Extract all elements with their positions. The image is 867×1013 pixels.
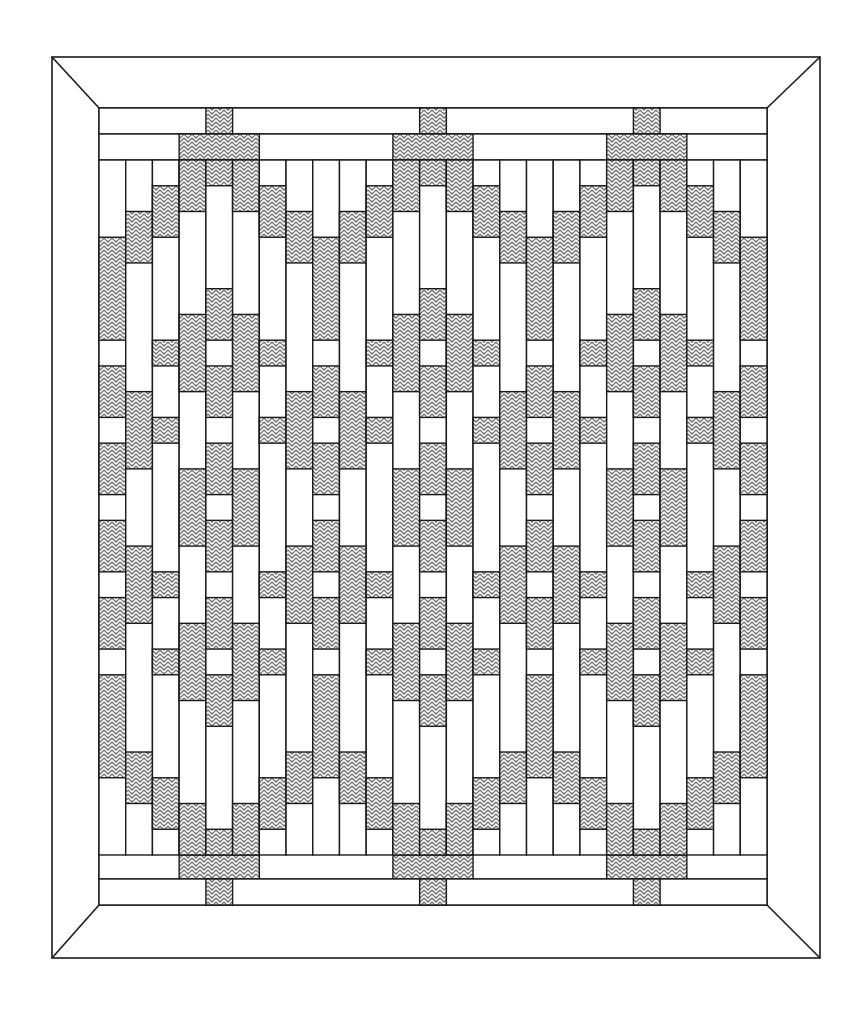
- vertical-strip: [500, 160, 527, 855]
- hatched-block: [393, 469, 420, 546]
- hatched-block: [446, 804, 473, 855]
- hatched-block: [366, 572, 393, 598]
- hatched-block: [473, 778, 500, 829]
- hatched-block: [580, 417, 607, 443]
- hatched-block: [179, 314, 206, 391]
- hatched-block: [633, 829, 660, 855]
- hatched-block: [152, 778, 179, 829]
- hatched-block: [206, 366, 233, 417]
- hatched-block: [580, 649, 607, 675]
- hatched-block: [339, 211, 366, 262]
- hatched-block: [206, 108, 233, 134]
- hatched-block: [366, 649, 393, 675]
- hatched-block: [740, 675, 767, 778]
- hatched-block: [740, 598, 767, 649]
- hatched-block: [420, 675, 447, 726]
- hatched-block: [633, 160, 660, 186]
- hatched-block: [446, 623, 473, 700]
- hatched-block: [687, 572, 714, 598]
- hatched-block: [366, 417, 393, 443]
- hatched-block: [152, 417, 179, 443]
- quilt-diagram: [0, 0, 867, 1013]
- hatched-block: [126, 546, 153, 623]
- hatched-block: [233, 160, 260, 211]
- hatched-block: [420, 879, 447, 905]
- hatched-block: [286, 752, 313, 803]
- hatched-block: [313, 675, 340, 778]
- hatched-block: [660, 314, 687, 391]
- hatched-block: [580, 778, 607, 829]
- hatched-block: [99, 443, 126, 494]
- hatched-block: [206, 520, 233, 571]
- hatched-block: [473, 340, 500, 366]
- hatched-block: [393, 134, 473, 160]
- hatched-block: [500, 211, 527, 262]
- hatched-block: [687, 778, 714, 829]
- hatched-block: [259, 649, 286, 675]
- hatched-block: [687, 649, 714, 675]
- hatched-block: [233, 469, 260, 546]
- hatched-block: [366, 340, 393, 366]
- hatched-block: [313, 237, 340, 340]
- hatched-block: [660, 469, 687, 546]
- hatched-block: [660, 623, 687, 700]
- hatched-block: [580, 340, 607, 366]
- hatched-block: [580, 186, 607, 237]
- hatched-block: [420, 289, 447, 340]
- vertical-strip: [553, 160, 580, 855]
- hatched-block: [420, 443, 447, 494]
- hatched-block: [339, 392, 366, 469]
- hatched-block: [259, 417, 286, 443]
- hatched-block: [714, 752, 741, 803]
- hatched-block: [740, 520, 767, 571]
- hatched-block: [527, 598, 554, 649]
- hatched-block: [553, 211, 580, 262]
- hatched-block: [714, 546, 741, 623]
- hatched-block: [420, 829, 447, 855]
- hatched-block: [687, 340, 714, 366]
- hatched-block: [580, 572, 607, 598]
- hatched-block: [633, 675, 660, 726]
- hatched-block: [206, 160, 233, 186]
- hatched-block: [152, 649, 179, 675]
- vertical-strip: [339, 160, 366, 855]
- hatched-block: [179, 853, 259, 879]
- hatched-block: [420, 598, 447, 649]
- hatched-block: [633, 108, 660, 134]
- hatched-block: [339, 546, 366, 623]
- hatched-block: [527, 520, 554, 571]
- hatched-block: [393, 804, 420, 855]
- hatched-block: [206, 289, 233, 340]
- hatched-block: [179, 804, 206, 855]
- hatched-block: [607, 314, 634, 391]
- hatched-block: [420, 520, 447, 571]
- hatched-block: [633, 598, 660, 649]
- hatched-block: [553, 752, 580, 803]
- hatched-block: [553, 546, 580, 623]
- hatched-block: [714, 211, 741, 262]
- hatched-block: [286, 211, 313, 262]
- hatched-block: [740, 366, 767, 417]
- hatched-block: [233, 804, 260, 855]
- hatched-block: [259, 572, 286, 598]
- hatched-block: [660, 160, 687, 211]
- vertical-strip: [286, 160, 313, 855]
- vertical-strip: [633, 160, 660, 855]
- hatched-block: [152, 572, 179, 598]
- hatched-block: [420, 366, 447, 417]
- hatched-block: [366, 778, 393, 829]
- vertical-strip: [206, 160, 233, 855]
- hatched-block: [607, 853, 687, 879]
- hatched-block: [179, 623, 206, 700]
- hatched-block: [527, 443, 554, 494]
- hatched-block: [286, 546, 313, 623]
- hatched-block: [687, 186, 714, 237]
- hatched-block: [446, 469, 473, 546]
- hatched-block: [420, 160, 447, 186]
- vertical-strip: [473, 160, 500, 855]
- hatched-block: [393, 853, 473, 879]
- hatched-block: [633, 879, 660, 905]
- hatched-block: [473, 572, 500, 598]
- hatched-block: [152, 340, 179, 366]
- vertical-strip: [366, 160, 393, 855]
